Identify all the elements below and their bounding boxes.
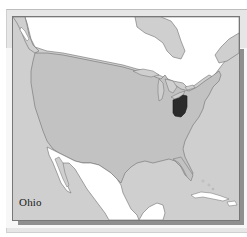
bahamas-island (202, 180, 204, 182)
bahamas-island (212, 188, 214, 190)
map-panel (12, 16, 240, 221)
bahamas-island (208, 184, 210, 186)
region-hispaniola (227, 201, 237, 206)
north-america-map (13, 17, 239, 220)
map-title-label: Ohio (19, 196, 42, 208)
